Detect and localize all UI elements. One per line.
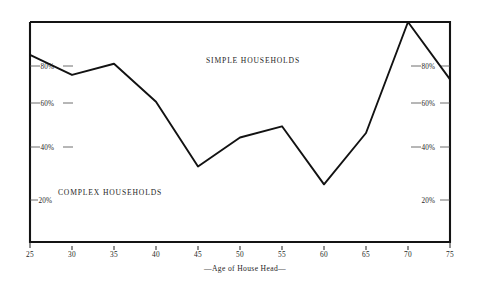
y-tick-label-left-40: 40% — [41, 144, 55, 152]
x-tick-label-60: 60 — [320, 250, 328, 259]
chart-figure: 80% 60% 40% 20% 80% 60% 40% 20% — [0, 0, 481, 284]
y-tick-label-right-60: 60% — [422, 100, 436, 108]
x-tick-label-35: 35 — [110, 250, 118, 259]
y-tick-label-right-20: 20% — [422, 197, 436, 205]
y-tick-label-left-60: 60% — [41, 100, 55, 108]
x-tick-label-70: 70 — [404, 250, 412, 259]
x-axis-title: —Age of House Head— — [203, 264, 286, 273]
x-tick-label-50: 50 — [236, 250, 244, 259]
annotation-complex-households: COMPLEX HOUSEHOLDS — [58, 188, 162, 197]
x-tick-label-65: 65 — [362, 250, 370, 259]
y-tick-label-right-40: 40% — [422, 144, 436, 152]
x-tick-label-75: 75 — [446, 250, 454, 259]
y-tick-label-right-80: 80% — [422, 63, 436, 71]
x-tick-label-40: 40 — [152, 250, 160, 259]
annotation-simple-households: SIMPLE HOUSEHOLDS — [206, 56, 300, 65]
household-age-line-chart: 80% 60% 40% 20% 80% 60% 40% 20% — [0, 0, 481, 284]
x-tick-label-25: 25 — [26, 250, 34, 259]
x-tick-label-55: 55 — [278, 250, 286, 259]
x-tick-label-30: 30 — [68, 250, 76, 259]
x-tick-label-45: 45 — [194, 250, 202, 259]
y-tick-label-left-20: 20% — [39, 197, 53, 205]
